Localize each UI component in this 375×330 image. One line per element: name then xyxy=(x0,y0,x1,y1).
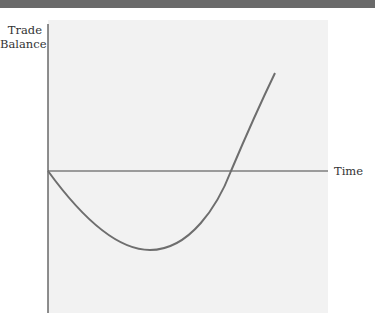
y-axis-label-line2: Balance xyxy=(0,37,42,51)
x-axis-label: Time xyxy=(334,164,363,178)
j-curve-chart xyxy=(0,0,375,330)
y-axis-label: Trade Balance xyxy=(0,23,42,51)
y-axis-label-line1: Trade xyxy=(0,23,42,37)
trade-balance-curve xyxy=(48,73,275,250)
